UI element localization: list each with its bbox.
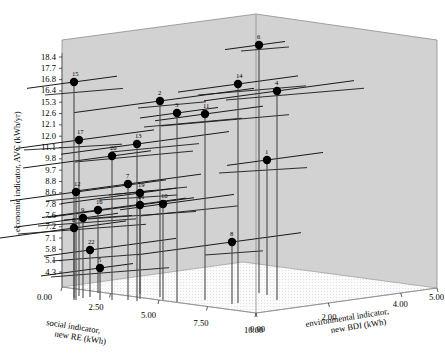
y-tick-label: 7.6 [18,211,56,220]
x-tick-label: 7.50 [194,319,209,328]
point-label: 17 [77,129,84,136]
y-tick-label: 16.4 [18,86,56,95]
data-point-marker[interactable] [70,224,78,232]
point-label: 10 [161,193,168,200]
data-point-marker[interactable] [159,200,167,208]
z-tick-label: 5.00 [429,293,444,302]
y-tick-label: 7.8 [18,200,56,209]
point-label: 16 [96,199,103,206]
data-point-marker[interactable] [70,78,78,86]
point-label: 4 [275,80,278,87]
x-tick [207,307,208,311]
data-point-marker[interactable] [86,246,94,254]
z-tick-label: 0.00 [250,325,265,334]
chart-figure: 18.417.716.816.415.312.612.112.011.19.89… [0,0,445,362]
y-tick-label: 8.6 [18,188,56,197]
x-tick-label: 5.00 [141,311,156,320]
z-tick [328,303,329,307]
data-point-marker[interactable] [79,214,87,222]
point-label: 14 [236,73,243,80]
y-tick-label: 5.1 [18,256,56,265]
data-point-marker[interactable] [96,264,104,272]
y-tick-label: 7.1 [18,234,56,243]
point-label: 12 [74,181,81,188]
y-tick-label: 15.3 [18,98,56,107]
point-label: 21 [138,194,145,201]
y-tick-label: 9.7 [18,166,56,175]
point-label: 7 [126,173,129,180]
data-point-marker[interactable] [255,41,263,49]
point-label: 9 [81,207,84,214]
point-label: 2 [158,90,161,97]
x-tick [110,294,111,298]
z-tick-label: 4.00 [393,300,408,309]
point-label: 11 [203,103,209,110]
y-tick-label: 12.1 [18,120,56,129]
data-point-marker[interactable] [94,206,102,214]
point-label: 8 [230,231,233,238]
z-tick [401,293,402,297]
data-point-marker[interactable] [273,87,281,95]
data-point-marker[interactable] [136,201,144,209]
point-label: 1 [265,149,268,156]
y-tick-label: 11.1 [18,143,56,152]
y-tick-label: 12.6 [18,109,56,118]
x-tick [61,287,62,291]
y-tick-label: 5.8 [18,245,56,254]
data-point-marker[interactable] [173,109,181,117]
y-tick-label: 7.2 [18,222,56,231]
point-label: 8 [72,217,75,224]
y-tick-label: 12.0 [18,132,56,141]
data-point-marker[interactable] [124,180,132,188]
z-axis-title: environmental indicator, new BDI (kWh) [305,320,389,340]
point-label: 13 [135,133,142,140]
data-point-marker[interactable] [75,136,83,144]
data-point-marker[interactable] [201,110,209,118]
point-label: 20 [110,145,117,152]
x-tick [158,300,159,304]
y-tick-label: 9.8 [18,154,56,163]
point-label: 15 [72,71,79,78]
point-label: 22 [88,239,95,246]
data-point-marker[interactable] [133,140,141,148]
point-label: 19 [138,182,145,189]
data-point-marker[interactable] [228,238,236,246]
point-label: 3 [175,102,178,109]
y-tick-label: 18.4 [18,53,56,62]
y-tick-label: 4.3 [18,268,56,277]
y-tick-label: 8.8 [18,177,56,186]
data-point-marker[interactable] [234,80,242,88]
y-tick-label: 16.8 [18,75,56,84]
point-label: 5 [98,257,101,264]
x-axis-title: social indicator, new RE (kWh) [47,318,109,338]
y-axis-title: economic indicator, AVC (kWh/yr) [12,111,22,232]
data-point-marker[interactable] [108,152,116,160]
point-label: 6 [257,34,260,41]
data-point-marker[interactable] [72,188,80,196]
data-point-marker[interactable] [263,156,271,164]
x-tick-label: 0.00 [37,293,52,302]
z-tick [256,313,257,317]
data-point-marker[interactable] [156,97,164,105]
y-tick-label: 17.7 [18,64,56,73]
x-tick-label: 2.50 [89,303,104,312]
